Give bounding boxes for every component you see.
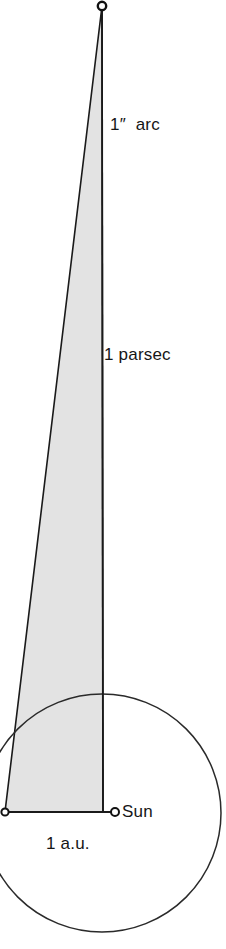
parsec-distance-label: 1 parsec <box>104 346 171 363</box>
sun-label: Sun <box>122 803 153 820</box>
arc-angle-label: 1″ arc <box>110 116 160 133</box>
astronomical-unit-label: 1 a.u. <box>46 835 90 852</box>
parallax-triangle <box>5 6 103 812</box>
parallax-diagram: 1″ arc 1 parsec Sun 1 a.u. Now divergent… <box>0 0 226 949</box>
parallax-diagram-canvas <box>0 0 226 949</box>
parsec-side-line <box>102 6 103 812</box>
earth-marker-icon <box>1 808 8 815</box>
figure-caption-partial: Now divergent... <box>0 941 226 949</box>
sun-marker-icon <box>111 808 119 816</box>
star-marker-icon <box>98 2 106 10</box>
